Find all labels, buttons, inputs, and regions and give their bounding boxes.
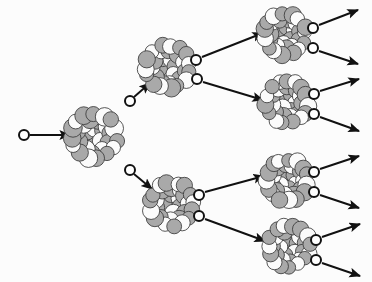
emitted-neutron-gen3d-lower <box>311 255 321 265</box>
escaping-neutron-arrow-3 <box>320 79 359 91</box>
escaping-neutron-arrow-7 <box>322 224 360 237</box>
neutron-path-to-gen3-a <box>202 33 263 57</box>
generation-3-nucleus-3 <box>258 153 315 209</box>
escaping-neutron-arrow-5 <box>320 156 359 169</box>
nuclei-layer <box>63 7 317 275</box>
emitted-neutron-gen1-upper <box>125 96 135 106</box>
nucleon <box>167 219 182 234</box>
neutron-path-to-gen2-bottom <box>134 174 152 189</box>
emitted-neutron-gen3a-upper <box>308 23 318 33</box>
neutron-path-to-gen3-d <box>205 219 265 241</box>
emitted-neutron-gen3c-upper <box>309 167 319 177</box>
generation-3-nucleus-4 <box>262 218 317 274</box>
escaping-neutron-arrow-6 <box>320 195 359 208</box>
nucleon <box>138 51 155 68</box>
escaping-neutron-arrow-2 <box>319 51 358 64</box>
emitted-neutron-gen1-lower <box>125 165 135 175</box>
emitted-neutron-gen3b-lower <box>309 109 319 119</box>
emitted-neutron-gen3a-lower <box>308 43 318 53</box>
generation-1-nucleus <box>63 107 124 168</box>
emitted-neutron-gen3c-lower <box>309 187 319 197</box>
emitted-neutron-gen2top-lower <box>192 74 202 84</box>
emitted-neutron-gen2bottom-lower <box>194 211 204 221</box>
generation-2-nucleus-top <box>137 37 196 97</box>
nucleon <box>103 112 118 127</box>
generation-3-nucleus-1 <box>256 7 314 64</box>
escaping-neutron-arrow-1 <box>319 10 358 25</box>
generation-2-nucleus-bottom <box>142 175 200 234</box>
emitted-neutron-gen2bottom-upper <box>194 190 204 200</box>
escaping-neutron-arrow-8 <box>322 263 360 276</box>
nucleon <box>271 192 288 209</box>
neutron-path-to-gen3-c <box>205 176 264 192</box>
emitted-neutron-gen3d-upper <box>311 235 321 245</box>
emitted-neutron-gen3b-upper <box>309 89 319 99</box>
incident-neutron <box>19 130 29 140</box>
emitted-neutron-gen2top-upper <box>191 55 201 65</box>
escaping-neutron-arrow-4 <box>320 117 359 131</box>
generation-3-nucleus-2 <box>257 74 317 130</box>
nucleon <box>265 79 279 93</box>
fission-chain-reaction-diagram <box>0 0 372 282</box>
neutron-path-to-gen3-b <box>203 82 263 100</box>
diagram-canvas <box>0 0 372 282</box>
